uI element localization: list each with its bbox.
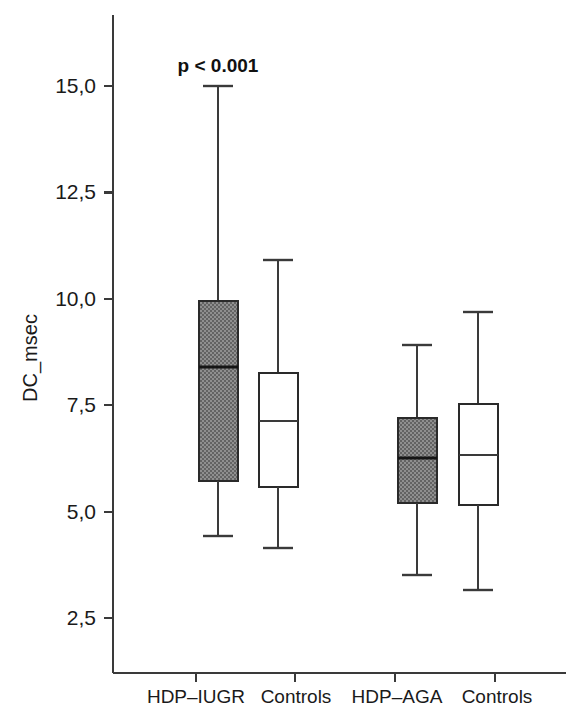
box-group-controls-2 [459,312,498,590]
box-body-2 [259,373,298,487]
y-tick-label-10: 10,0 [55,287,96,310]
x-label-controls-2: Controls [462,686,533,707]
y-tick-label-15: 15,0 [55,74,96,97]
box-group-controls-1 [259,260,298,548]
x-label-hdp-iugr: HDP–IUGR [147,686,245,707]
y-axis-title: DC_msec [19,314,42,402]
y-tick-label-2_5: 2,5 [67,606,96,629]
box-body-1 [199,301,238,481]
x-label-controls-1: Controls [261,686,332,707]
boxplot-figure: 15,0 12,5 10,0 7,5 5,0 2,5 DC_msec HDP–I… [0,0,583,727]
x-label-hdp-aga: HDP–AGA [352,686,443,707]
boxplot-canvas: 15,0 12,5 10,0 7,5 5,0 2,5 DC_msec HDP–I… [0,0,583,727]
y-tick-label-5: 5,0 [67,500,96,523]
box-group-hdp-iugr [199,86,238,536]
pvalue-annotation: p < 0.001 [178,55,259,76]
y-tick-label-7_5: 7,5 [67,393,96,416]
y-tick-label-12_5: 12,5 [55,180,96,203]
box-group-hdp-aga [398,345,437,575]
box-body-3 [398,418,437,503]
